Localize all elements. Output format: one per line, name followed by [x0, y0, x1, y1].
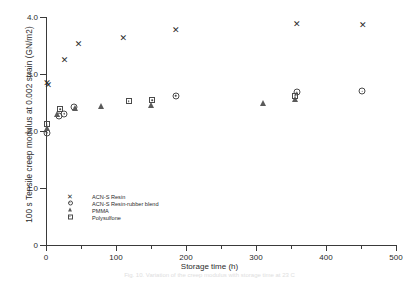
y-tick [40, 188, 46, 189]
data-point [98, 103, 104, 109]
data-point [172, 92, 179, 99]
figure-scatter-creep-modulus: 100 s Tensile creep modulus at 0.002 str… [0, 0, 419, 282]
x-tick [256, 245, 257, 251]
x-tick-minor [151, 245, 152, 249]
x-tick [326, 245, 327, 251]
x-tick [396, 245, 397, 251]
x-tick-label: 400 [319, 253, 332, 262]
x-tick-minor [361, 245, 362, 249]
data-point: ✕ [359, 21, 366, 28]
x-tick-minor [291, 245, 292, 249]
legend-label: Polysulfone [92, 213, 121, 223]
data-point [57, 106, 63, 112]
data-point [149, 97, 155, 103]
data-point: ✕ [61, 56, 68, 63]
x-tick-minor [81, 245, 82, 249]
y-tick [40, 74, 46, 75]
data-point [260, 100, 266, 106]
data-point [72, 105, 78, 111]
data-point: ✕ [45, 82, 52, 89]
x-tick [116, 245, 117, 251]
x-tick-label: 300 [249, 253, 262, 262]
data-point: ✕ [120, 34, 127, 41]
triangle-icon [66, 206, 74, 213]
square-dot-icon [66, 213, 74, 220]
data-point: ✕ [75, 41, 82, 48]
figure-caption: Fig. 10. Variation of the creep modulus … [0, 272, 419, 278]
x-tick-label: 100 [109, 253, 122, 262]
data-point [148, 102, 154, 108]
y-tick [40, 17, 46, 18]
x-tick-label: 200 [179, 253, 192, 262]
y-tick-label: 3.0 [27, 70, 38, 79]
data-point: ✕ [172, 26, 179, 33]
data-point [44, 121, 50, 127]
data-point [292, 93, 298, 99]
x-tick-minor [221, 245, 222, 249]
circle-dot-icon [66, 199, 74, 206]
x-tick-label: 0 [44, 253, 48, 262]
data-point [359, 88, 366, 95]
y-tick-label: 0 [34, 241, 38, 250]
x-tick [186, 245, 187, 251]
data-point: ✕ [293, 21, 300, 28]
x-axis-label: Storage time (h) [0, 262, 419, 271]
y-axis-label: 100 s Tensile creep modulus at 0.002 str… [25, 0, 34, 250]
x-tick [46, 245, 47, 251]
y-tick-label: 4.0 [27, 13, 38, 22]
y-tick-label: 1.0 [27, 184, 38, 193]
data-point [126, 98, 132, 104]
y-tick-label: 2.0 [27, 127, 38, 136]
cross-icon: ✕ [66, 192, 74, 199]
x-tick-label: 500 [389, 253, 402, 262]
